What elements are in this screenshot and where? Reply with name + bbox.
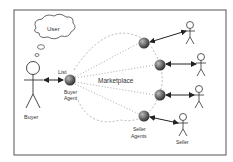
buyer-label: Buyer: [24, 114, 39, 120]
seller-agents-label: Seller: [133, 126, 146, 132]
cloud-text: User: [47, 26, 60, 32]
seller-agent-1-icon: [139, 38, 150, 49]
seller-agents-label-2: Agents: [131, 133, 147, 139]
buyer-agent-label-2: Agent: [64, 95, 78, 101]
seller-agent-2-icon: [155, 60, 166, 71]
buyer-agent-icon: [65, 75, 76, 86]
seller-agent-3-icon: [155, 90, 166, 101]
marketplace-diagram: User Buyer List Buyer Agent Marketplace …: [0, 0, 233, 162]
seller-agent-4-icon: [139, 111, 150, 122]
marketplace-label: Marketplace: [98, 77, 134, 85]
list-label: List: [58, 69, 67, 75]
seller-label: Seller: [176, 139, 189, 145]
